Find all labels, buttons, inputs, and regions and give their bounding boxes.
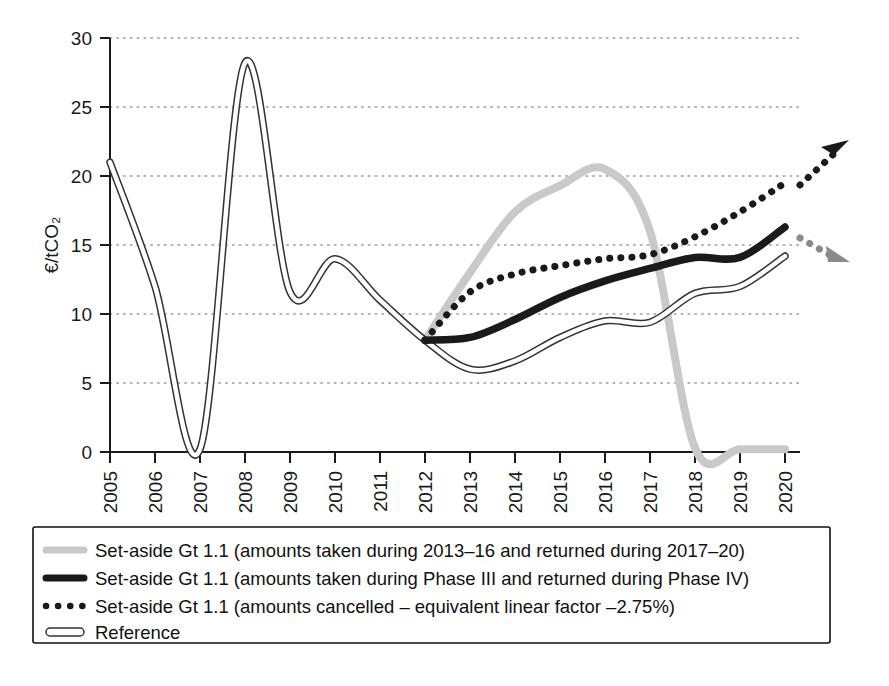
x-tick-labels: 2005 2006 2007 2008 2009 2010 2011 2012 …	[100, 471, 796, 514]
legend-label-2: Set-aside Gt 1.1 (amounts cancelled – eq…	[95, 596, 675, 617]
x-tick-label-2005: 2005	[100, 471, 121, 513]
phase-arrow-shaft	[800, 238, 830, 255]
x-tick-label-2014: 2014	[505, 471, 526, 514]
y-tick-label-15: 15	[71, 235, 92, 256]
outlined-white-line-icon	[46, 628, 84, 636]
y-axis-title: €/tCO₂	[41, 217, 62, 274]
x-tick-label-2008: 2008	[235, 471, 256, 513]
y-tick-label-20: 20	[71, 166, 92, 187]
cancel-arrow-shaft	[800, 152, 836, 185]
legend-item-set-aside-phase[interactable]: Set-aside Gt 1.1 (amounts taken during P…	[46, 568, 749, 589]
x-tick-label-2016: 2016	[595, 471, 616, 513]
x-tick-label-2007: 2007	[190, 471, 211, 513]
y-tick-label-10: 10	[71, 304, 92, 325]
x-tick-label-2018: 2018	[685, 471, 706, 513]
y-tick-label-0: 0	[81, 442, 92, 463]
x-tick-label-2009: 2009	[280, 471, 301, 513]
down-right-arrow-icon	[826, 246, 850, 262]
x-tick-label-2019: 2019	[730, 471, 751, 513]
legend: Set-aside Gt 1.1 (amounts taken during 2…	[33, 527, 830, 643]
legend-label-1: Set-aside Gt 1.1 (amounts taken during P…	[95, 568, 749, 589]
x-tick-label-2015: 2015	[550, 471, 571, 513]
x-tick-label-2011: 2011	[370, 471, 391, 512]
up-right-arrow-icon	[821, 140, 849, 155]
legend-item-set-aside-cancel[interactable]: Set-aside Gt 1.1 (amounts cancelled – eq…	[46, 596, 675, 617]
legend-item-set-aside-return[interactable]: Set-aside Gt 1.1 (amounts taken during 2…	[46, 540, 745, 561]
chart-container: 30 25 20 15 10 5 0 €/tCO₂ 2005 2006 2007…	[0, 0, 889, 686]
x-tick-label-2013: 2013	[460, 471, 481, 513]
series-layer	[110, 61, 785, 465]
y-tick-label-25: 25	[71, 97, 92, 118]
trend-arrows	[800, 140, 850, 262]
x-tick-label-2017: 2017	[640, 471, 661, 513]
x-tick-label-2012: 2012	[415, 471, 436, 513]
x-tick-marks	[110, 452, 785, 463]
x-tick-label-2006: 2006	[145, 471, 166, 513]
x-tick-label-2010: 2010	[325, 471, 346, 513]
legend-label-3: Reference	[95, 622, 180, 643]
y-tick-labels: 30 25 20 15 10 5 0	[71, 28, 92, 463]
chart-svg: 30 25 20 15 10 5 0 €/tCO₂ 2005 2006 2007…	[0, 0, 889, 686]
y-tick-label-30: 30	[71, 28, 92, 49]
legend-label-0: Set-aside Gt 1.1 (amounts taken during 2…	[95, 540, 745, 561]
series-set-aside-return	[425, 167, 785, 464]
x-tick-label-2020: 2020	[775, 471, 796, 513]
y-tick-label-5: 5	[81, 373, 92, 394]
